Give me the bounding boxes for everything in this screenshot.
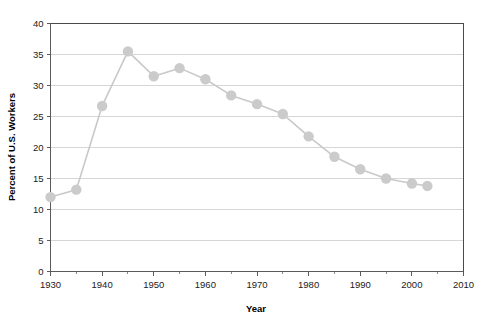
data-point-1960 xyxy=(200,74,210,84)
data-point-1950 xyxy=(149,71,159,81)
chart-background xyxy=(0,0,489,322)
y-axis-title: Percent of U.S. Workers xyxy=(6,93,17,201)
x-tick-label-1940: 1940 xyxy=(92,279,113,290)
x-tick-label-1970: 1970 xyxy=(246,279,267,290)
x-tick-label-2010: 2010 xyxy=(453,279,474,290)
data-point-2003 xyxy=(422,181,432,191)
x-tick-label-1990: 1990 xyxy=(350,279,371,290)
line-chart: 193019401950196019701980199020002010 051… xyxy=(0,0,489,322)
y-tick-label-40: 40 xyxy=(33,18,44,29)
data-point-1975 xyxy=(278,109,288,119)
y-tick-label-25: 25 xyxy=(33,111,44,122)
x-tick-label-1980: 1980 xyxy=(298,279,319,290)
y-tick-label-10: 10 xyxy=(33,204,44,215)
y-tick-label-20: 20 xyxy=(33,142,44,153)
x-axis-title: Year xyxy=(246,303,266,314)
y-tick-label-15: 15 xyxy=(33,173,44,184)
x-tick-label-1930: 1930 xyxy=(40,279,61,290)
y-tick-label-35: 35 xyxy=(33,49,44,60)
x-tick-label-1950: 1950 xyxy=(143,279,164,290)
x-tick-label-1960: 1960 xyxy=(195,279,216,290)
data-point-1930 xyxy=(45,192,55,202)
data-point-1990 xyxy=(355,164,365,174)
data-point-1980 xyxy=(303,131,313,141)
data-point-1995 xyxy=(381,173,391,183)
y-tick-label-5: 5 xyxy=(38,235,43,246)
chart-container: 193019401950196019701980199020002010 051… xyxy=(0,0,489,322)
x-axis-tick-labels: 193019401950196019701980199020002010 xyxy=(40,279,474,290)
data-point-1970 xyxy=(252,99,262,109)
data-point-1955 xyxy=(174,63,184,73)
data-point-1945 xyxy=(123,46,133,56)
data-point-2000 xyxy=(407,178,417,188)
x-tick-label-2000: 2000 xyxy=(401,279,422,290)
y-tick-label-0: 0 xyxy=(38,266,43,277)
y-tick-label-30: 30 xyxy=(33,80,44,91)
data-point-1965 xyxy=(226,90,236,100)
data-point-1940 xyxy=(97,101,107,111)
data-point-1985 xyxy=(329,152,339,162)
data-point-1935 xyxy=(71,184,81,194)
